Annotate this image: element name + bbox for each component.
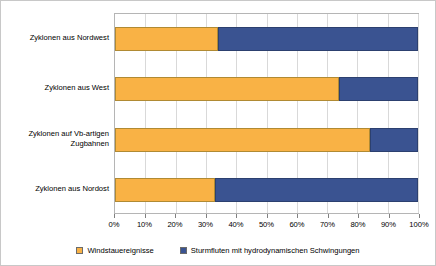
gridline xyxy=(418,14,419,213)
bar-segment[interactable] xyxy=(370,128,418,152)
axis-tick-label: 10% xyxy=(137,220,152,229)
legend-swatch-icon xyxy=(180,247,187,254)
stacked-bar[interactable] xyxy=(115,178,418,202)
axis-tick xyxy=(145,214,146,218)
axis-tick-label: 100% xyxy=(409,220,428,229)
axis-tick xyxy=(419,214,420,218)
bar-segment[interactable] xyxy=(115,128,370,152)
axis-tick-label: 80% xyxy=(350,220,365,229)
bar-group xyxy=(115,165,418,215)
axis-tick-label: 30% xyxy=(198,220,213,229)
axis-tick xyxy=(358,214,359,218)
bar-group xyxy=(115,14,418,64)
x-axis: 0%10%20%30%40%50%60%70%80%90%100% xyxy=(114,214,419,236)
axis-tick-label: 60% xyxy=(289,220,304,229)
axis-tick xyxy=(297,214,298,218)
legend-item[interactable]: Sturmfluten mit hydrodynamischen Schwing… xyxy=(180,246,360,255)
category-axis: Zyklonen aus NordwestZyklonen aus WestZy… xyxy=(1,13,114,214)
axis-tick-label: 50% xyxy=(259,220,274,229)
axis-tick xyxy=(114,214,115,218)
stacked-bar[interactable] xyxy=(115,27,418,51)
chart-container: Zyklonen aus NordwestZyklonen aus WestZy… xyxy=(0,0,436,266)
bar-segment[interactable] xyxy=(215,178,418,202)
category-label: Zyklonen aus Nordwest xyxy=(6,33,114,43)
category-label: Zyklonen auf Vb-artigen Zugbahnen xyxy=(6,128,114,149)
axis-tick xyxy=(206,214,207,218)
axis-tick xyxy=(389,214,390,218)
stacked-bar[interactable] xyxy=(115,128,418,152)
chart-legend: WindstauereignisseSturmfluten mit hydrod… xyxy=(1,241,435,259)
legend-label: Windstauereignisse xyxy=(87,246,153,255)
axis-tick-label: 20% xyxy=(167,220,182,229)
category-label: Zyklonen aus Nordost xyxy=(6,184,114,194)
axis-tick xyxy=(328,214,329,218)
axis-tick-label: 0% xyxy=(109,220,120,229)
legend-item[interactable]: Windstauereignisse xyxy=(76,246,153,255)
axis-tick xyxy=(236,214,237,218)
legend-label: Sturmfluten mit hydrodynamischen Schwing… xyxy=(191,246,360,255)
bar-segment[interactable] xyxy=(218,27,418,51)
axis-tick xyxy=(267,214,268,218)
bar-group xyxy=(115,64,418,114)
bar-group xyxy=(115,115,418,165)
axis-tick-label: 90% xyxy=(381,220,396,229)
bar-segment[interactable] xyxy=(115,178,215,202)
bar-segment[interactable] xyxy=(339,77,418,101)
plot-area xyxy=(114,13,419,214)
axis-tick-label: 40% xyxy=(228,220,243,229)
category-label: Zyklonen aus West xyxy=(6,83,114,93)
axis-tick xyxy=(175,214,176,218)
stacked-bar[interactable] xyxy=(115,77,418,101)
legend-swatch-icon xyxy=(76,247,83,254)
bar-segment[interactable] xyxy=(115,77,339,101)
bar-segment[interactable] xyxy=(115,27,218,51)
axis-tick-label: 70% xyxy=(320,220,335,229)
